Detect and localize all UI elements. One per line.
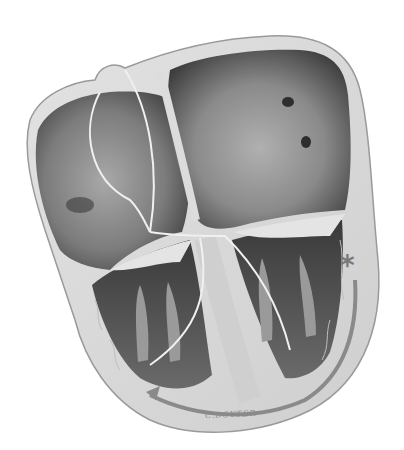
pulmonary-vein-opening — [282, 97, 294, 107]
heart-illustration — [0, 0, 404, 450]
ra-shadow — [66, 197, 94, 213]
marker-asterisk: * — [340, 252, 355, 280]
pulmonary-vein-opening — [301, 136, 311, 148]
